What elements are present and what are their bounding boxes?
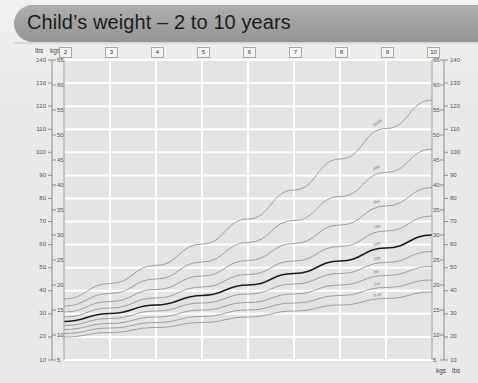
- y-label-left-kgs-30: 30: [57, 232, 64, 238]
- y-label-right-lbs-60: 60: [450, 241, 457, 247]
- y-label-left-lbs-140: 140: [0, 57, 46, 63]
- y-label-right-kgs-30: 30: [433, 232, 440, 238]
- x-axis-year-label-7: 7: [289, 47, 302, 58]
- y-label-left-kgs-10: 10: [57, 332, 64, 338]
- y-label-right-kgs-15: 15: [433, 307, 440, 313]
- y-label-right-lbs-90: 90: [450, 172, 457, 178]
- y-label-left-lbs-110: 110: [0, 126, 46, 132]
- y-label-right-lbs-40: 40: [450, 287, 457, 293]
- chart-page: Child’s weight – 2 to 10 years lbs kgs k…: [0, 0, 478, 383]
- y-label-right-lbs-10: 10: [450, 357, 457, 363]
- y-label-left-kgs-45: 45: [57, 157, 64, 163]
- x-axis-year-label-6: 6: [243, 47, 256, 58]
- y-label-left-kgs-50: 50: [57, 132, 64, 138]
- x-axis-year-label-9: 9: [381, 47, 394, 58]
- y-label-left-kgs-60: 60: [57, 82, 64, 88]
- y-label-right-lbs-110: 110: [450, 126, 460, 132]
- y-label-right-lbs-140: 140: [450, 57, 460, 63]
- y-label-left-lbs-60: 60: [0, 241, 46, 247]
- y-label-right-lbs-100: 100: [450, 149, 460, 155]
- y-label-left-lbs-100: 100: [0, 149, 46, 155]
- y-label-right-lbs-130: 130: [450, 80, 460, 86]
- y-label-left-lbs-40: 40: [0, 287, 46, 293]
- y-label-left-lbs-120: 120: [0, 103, 46, 109]
- y-label-right-kgs-35: 35: [433, 207, 440, 213]
- page-title: Child’s weight – 2 to 10 years: [27, 11, 291, 34]
- y-label-right-kgs-40: 40: [433, 182, 440, 188]
- plot-area: 99.6th98th91st75th50th25th9th2nd0.4th 23…: [0, 44, 478, 374]
- x-axis-year-label-4: 4: [151, 47, 164, 58]
- y-label-right-kgs-25: 25: [433, 257, 440, 263]
- y-label-right-lbs-30: 30: [450, 310, 457, 316]
- y-label-left-lbs-70: 70: [0, 218, 46, 224]
- growth-chart-svg: 99.6th98th91st75th50th25th9th2nd0.4th: [0, 44, 478, 374]
- y-label-left-kgs-5: 5: [57, 357, 60, 363]
- y-label-left-kgs-55: 55: [57, 107, 64, 113]
- y-label-left-kgs-20: 20: [57, 282, 64, 288]
- x-axis-year-label-3: 3: [105, 47, 118, 58]
- x-axis-year-label-8: 8: [335, 47, 348, 58]
- y-label-left-kgs-25: 25: [57, 257, 64, 263]
- y-label-right-lbs-50: 50: [450, 264, 457, 270]
- y-label-left-kgs-35: 35: [57, 207, 64, 213]
- y-label-right-lbs-70: 70: [450, 218, 457, 224]
- y-label-left-lbs-20: 20: [0, 333, 46, 339]
- y-label-left-lbs-80: 80: [0, 195, 46, 201]
- y-label-right-kgs-10: 10: [433, 332, 440, 338]
- y-label-right-lbs-80: 80: [450, 195, 457, 201]
- y-label-right-kgs-45: 45: [433, 157, 440, 163]
- x-axis-year-label-5: 5: [197, 47, 210, 58]
- y-label-right-kgs-50: 50: [433, 132, 440, 138]
- y-label-left-lbs-30: 30: [0, 310, 46, 316]
- y-label-right-kgs-65: 65: [433, 57, 440, 63]
- y-label-left-kgs-40: 40: [57, 182, 64, 188]
- y-label-right-lbs-120: 120: [450, 103, 460, 109]
- y-label-right-kgs-60: 60: [433, 82, 440, 88]
- y-label-left-lbs-50: 50: [0, 264, 46, 270]
- y-label-left-kgs-15: 15: [57, 307, 64, 313]
- y-label-right-kgs-55: 55: [433, 107, 440, 113]
- y-label-right-kgs-20: 20: [433, 282, 440, 288]
- y-label-left-lbs-130: 130: [0, 80, 46, 86]
- y-label-right-lbs-20: 20: [450, 333, 457, 339]
- y-label-left-lbs-90: 90: [0, 172, 46, 178]
- y-label-left-lbs-10: 10: [0, 357, 46, 363]
- y-label-right-kgs-5: 5: [433, 357, 436, 363]
- y-label-left-kgs-65: 65: [57, 57, 64, 63]
